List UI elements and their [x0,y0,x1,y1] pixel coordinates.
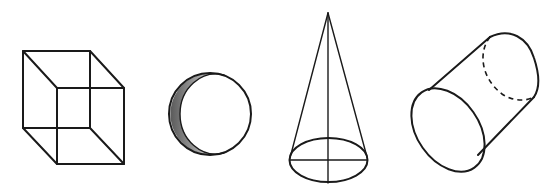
sphere-shape [169,73,251,155]
figure-canvas [0,0,556,190]
geometric-solids-figure: Four line drawings of 3D geometric solid… [0,0,556,190]
cylinder-shape [396,33,538,185]
cube-shape [23,51,124,164]
cone-shape [290,13,368,183]
